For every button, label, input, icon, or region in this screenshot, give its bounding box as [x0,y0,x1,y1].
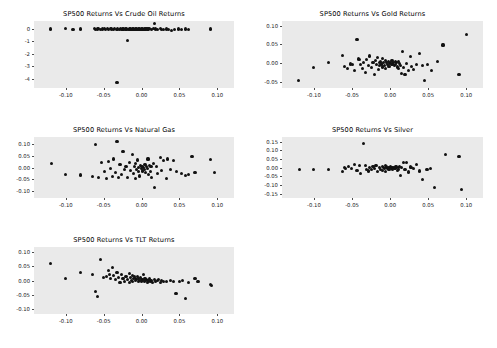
y-tick-label: -0.10 [248,182,278,188]
data-point [166,157,169,160]
data-point [180,172,183,175]
data-point [79,27,82,30]
data-point [405,62,408,65]
data-point [341,170,344,173]
data-point [79,173,82,176]
data-point [124,165,127,168]
x-tick-mark [217,88,218,90]
y-tick-label: 0.10 [248,147,278,153]
data-point [142,273,145,276]
x-tick-label: -0.10 [59,202,73,208]
y-tick-label: -0.10 [0,306,30,312]
data-point [193,171,196,174]
data-point [91,175,94,178]
x-tick-label: 0.10 [460,92,472,98]
y-tick-label: 0.00 [248,165,278,171]
x-tick-label: 0.10 [211,92,223,98]
subplot-title: SP500 Returns Vs Gold Returns [248,10,497,18]
data-point [126,39,129,42]
data-point [111,266,114,269]
y-tick-label: -0.15 [248,191,278,197]
x-tick-label: 0.10 [211,318,223,324]
y-tick-mark [280,176,282,177]
data-point [134,177,137,180]
data-point [421,64,424,67]
x-tick-label: 0.05 [174,92,186,98]
x-tick-mark [466,198,467,200]
data-point [190,155,193,158]
data-point [121,150,124,153]
x-tick-mark [142,88,143,90]
x-tick-mark [314,198,315,200]
data-point [407,170,410,173]
y-tick-mark [32,156,34,157]
data-point [115,81,118,84]
data-point [355,38,358,41]
data-point [94,143,97,146]
data-point [444,153,447,156]
y-tick-mark [280,185,282,186]
data-point [359,172,362,175]
data-point [209,158,212,161]
data-point [465,33,468,36]
y-tick-label: -4 [0,76,30,82]
x-tick-label: 0.05 [174,202,186,208]
x-tick-label: -0.10 [59,318,73,324]
data-point [109,277,112,280]
y-tick-label: -0.05 [248,173,278,179]
data-point [426,63,429,66]
data-point [165,177,168,180]
y-tick-label: -0.05 [0,292,30,298]
x-tick-mark [66,88,67,90]
data-point [421,178,424,181]
data-point [123,168,126,171]
data-point [341,54,344,57]
x-tick-mark [217,314,218,316]
x-tick-label: -0.10 [59,92,73,98]
plot-area [282,21,483,88]
data-point [409,55,412,58]
data-point [187,173,190,176]
y-tick-mark [280,63,282,64]
data-point [365,58,368,61]
data-point [403,168,406,171]
data-point [187,281,190,284]
data-point [172,280,175,283]
plot-area [34,137,234,198]
data-point [433,186,436,189]
y-tick-label: -0.10 [0,188,30,194]
x-tick-mark [66,314,67,316]
x-tick-mark [142,198,143,200]
x-tick-mark [428,198,429,200]
subplot-sp500-returns-vs-gold-returns: SP500 Returns Vs Gold Returns0.100.050.0… [248,2,497,118]
data-point [358,164,361,167]
y-tick-mark [32,252,34,253]
data-point [49,27,52,30]
data-point [162,159,165,162]
data-point [155,165,158,168]
y-tick-mark [32,168,34,169]
data-point [120,173,123,176]
x-tick-label: 0.00 [136,318,148,324]
y-tick-mark [280,168,282,169]
plot-area [34,247,234,314]
y-tick-mark [280,26,282,27]
x-tick-mark [217,198,218,200]
data-point [50,162,53,165]
data-point [403,73,406,76]
x-tick-mark [179,314,180,316]
data-point [150,176,153,179]
data-point [209,27,212,30]
y-tick-label: 0.05 [0,263,30,269]
data-point [181,279,184,282]
x-tick-label: -0.05 [97,202,111,208]
y-tick-mark [32,191,34,192]
y-tick-mark [280,44,282,45]
data-point [138,174,141,177]
data-point [114,171,117,174]
data-point [114,278,117,281]
data-point [149,165,152,168]
x-tick-mark [466,88,467,90]
data-point [312,66,315,69]
scatter-matrix-figure: SP500 Returns Vs Crude Oil Returns0-1-2-… [0,0,497,348]
